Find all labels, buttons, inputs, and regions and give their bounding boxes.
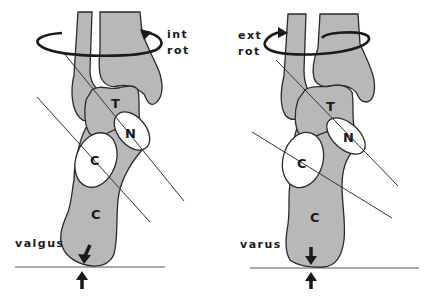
navicular-label-left: N bbox=[125, 126, 136, 141]
upward-ground-reaction-arrow-icon bbox=[76, 271, 88, 289]
varus-label: varus bbox=[240, 238, 282, 251]
navicular-label-right: N bbox=[343, 130, 354, 145]
foot-rotation-diagram: int rot T N C C valgus bbox=[0, 0, 429, 298]
cuboid-label-left: C bbox=[90, 153, 100, 168]
valgus-label: valgus bbox=[15, 237, 65, 250]
rotation-label-line2-left: rot bbox=[167, 44, 190, 57]
calcaneus-label-right: C bbox=[310, 210, 320, 225]
left-panel-internal-rotation-valgus: int rot T N C C valgus bbox=[15, 12, 190, 289]
upward-ground-reaction-arrow-icon bbox=[305, 272, 317, 289]
talus-label-left: T bbox=[111, 96, 120, 111]
rotation-label-line1-right: ext bbox=[238, 29, 262, 42]
rotation-label-line2-right: rot bbox=[238, 45, 261, 58]
right-panel-external-rotation-varus: ext rot T N C C varus bbox=[238, 14, 419, 289]
rotation-label-line1-left: int bbox=[167, 28, 188, 41]
talus-label-right: T bbox=[326, 99, 335, 114]
cuboid-label-right: C bbox=[297, 156, 307, 171]
calcaneus-label-left: C bbox=[91, 207, 101, 222]
